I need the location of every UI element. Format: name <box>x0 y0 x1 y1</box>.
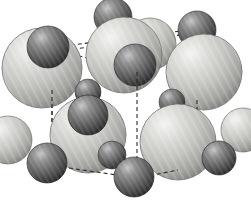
crystal-structure-figure <box>0 0 251 206</box>
small-sphere-bottom-right <box>202 141 236 175</box>
small-sphere-top-left <box>27 26 69 68</box>
structure-canvas <box>0 0 251 206</box>
small-sphere-bottom-front <box>114 157 154 197</box>
small-sphere-mid-left <box>68 95 108 135</box>
small-sphere-front-center <box>114 44 156 86</box>
small-sphere-bottom-left <box>27 143 67 183</box>
